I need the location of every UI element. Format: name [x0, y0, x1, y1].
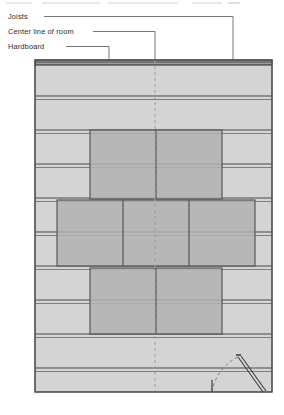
hardboard-row-middle: [57, 200, 255, 266]
leader-joists: [44, 17, 233, 63]
hardboard-row-upper: [90, 130, 222, 199]
hardboard-panel: [57, 200, 255, 266]
plan-drawing: [0, 0, 284, 415]
leader-lines: [44, 17, 233, 63]
figure-canvas: Joists Center line of room Hardboard: [0, 0, 284, 415]
hardboard-row-lower: [90, 268, 222, 334]
